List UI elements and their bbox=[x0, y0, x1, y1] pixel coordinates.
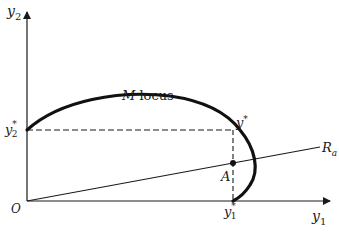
y-star-label: y* bbox=[235, 114, 248, 130]
y-axis-label: y2 bbox=[6, 3, 21, 22]
ray-ra bbox=[27, 147, 320, 201]
y2-star-label: y*2 bbox=[4, 119, 18, 139]
origin-label: O bbox=[11, 202, 21, 216]
diagram-canvas: y2 O y1 M locus y* y*2 y*1 A Ra bbox=[0, 0, 339, 237]
m-locus-curve bbox=[27, 94, 255, 201]
point-a-dot bbox=[230, 160, 236, 166]
point-a-label: A bbox=[220, 169, 230, 184]
ray-ra-label: Ra bbox=[321, 140, 337, 158]
m-locus-label: M locus bbox=[121, 88, 174, 103]
x-axis-label: y1 bbox=[311, 208, 326, 227]
y1-star-label: y*1 bbox=[223, 201, 237, 221]
